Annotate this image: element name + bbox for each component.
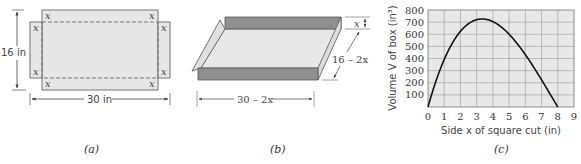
x-tick-label: 2	[457, 111, 463, 122]
y-tick-label: 800	[405, 5, 424, 16]
x-tick-label: 0	[425, 111, 431, 122]
y-tick-label: 300	[405, 65, 424, 76]
back-wall	[225, 17, 341, 29]
x-tick-label: 4	[490, 111, 496, 122]
y-tick-label: 100	[405, 89, 424, 100]
depth-arrow	[334, 66, 340, 78]
corner-label: x	[149, 78, 155, 89]
y-tick-label: 700	[405, 17, 424, 28]
y-tick-label: 400	[405, 53, 424, 64]
figure: x x x x x x x x 16 in 30 in (a)	[0, 0, 581, 164]
x-tick-label: 9	[571, 111, 577, 122]
caption-c: (c)	[494, 143, 509, 156]
x-axis-label: Side x of square cut (in)	[441, 125, 561, 136]
panel-c-volume-chart: 0123456789 100200300400500600700800 Side…	[387, 5, 577, 157]
panel-a-flat-sheet: x x x x x x x x 16 in 30 in (a)	[1, 10, 170, 156]
width-label: 30 – 2x	[237, 94, 273, 105]
y-tick-label: 200	[405, 77, 424, 88]
x-tick-label: 1	[441, 111, 447, 122]
panel-b-open-box: x 16 – 2x 30 – 2x (b)	[192, 17, 370, 156]
corner-label: x	[161, 66, 167, 77]
x-tick-label: 5	[506, 111, 512, 122]
x-tick-label: 8	[555, 111, 561, 122]
height-label: 16 in	[1, 47, 26, 58]
depth-label: 16 – 2x	[332, 54, 368, 65]
corner-label: x	[33, 22, 39, 33]
corner-label: x	[149, 10, 155, 21]
y-axis-label: Volume V of box (in³)	[387, 5, 398, 110]
x-tick-label: 3	[473, 111, 479, 122]
corner-label: x	[45, 10, 51, 21]
corner-label: x	[45, 78, 51, 89]
corner-label: x	[161, 22, 167, 33]
x-tick-label: 6	[522, 111, 528, 122]
x-axis-ticks: 0123456789	[425, 111, 577, 122]
front-wall	[198, 68, 318, 80]
y-tick-label: 500	[405, 41, 424, 52]
height-label: x	[354, 18, 360, 29]
caption-a: (a)	[84, 143, 99, 156]
caption-b: (b)	[270, 143, 286, 156]
corner-label: x	[33, 66, 39, 77]
y-tick-label: 600	[405, 29, 424, 40]
depth-arrow	[347, 32, 359, 52]
box-floor	[201, 29, 341, 68]
width-label: 30 in	[87, 94, 112, 105]
x-tick-label: 7	[538, 111, 544, 122]
y-axis-ticks: 100200300400500600700800	[405, 5, 424, 101]
